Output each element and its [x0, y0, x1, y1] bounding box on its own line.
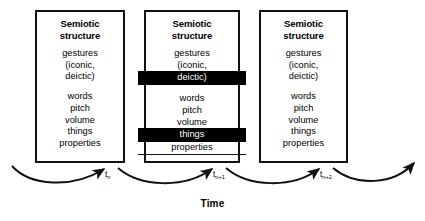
box-title: Semiotic structure	[261, 12, 346, 41]
term-item: properties	[261, 138, 346, 150]
box-title-line2: structure	[37, 30, 123, 42]
semiotic-structure-box-tn1: Semiotic structure gestures (iconic, dei…	[144, 10, 240, 163]
box-content: Semiotic structure gestures (iconic, dei…	[146, 12, 238, 161]
term-item: (iconic,	[261, 60, 346, 72]
term-item: volume	[146, 117, 238, 129]
box-title-line2: structure	[146, 30, 238, 42]
time-arrow-2	[118, 168, 212, 183]
term-item-highlighted: things	[138, 128, 246, 142]
box-title-line1: Semiotic	[261, 18, 346, 30]
figure-canvas: Semiotic structure gestures (iconic, dei…	[0, 0, 425, 221]
time-tick-label-tn: tn	[105, 170, 110, 179]
term-item: properties	[138, 142, 246, 155]
term-item: deictic)	[261, 71, 346, 83]
term-item: things	[261, 126, 346, 138]
time-axis-caption: Time	[0, 198, 425, 209]
term-item: gestures	[146, 48, 238, 60]
box-content: Semiotic structure gestures (iconic, dei…	[261, 12, 346, 161]
box-content: Semiotic structure gestures (iconic, dei…	[37, 12, 123, 161]
term-item: volume	[37, 115, 123, 127]
box-title: Semiotic structure	[37, 12, 123, 41]
tick-subscript: n	[107, 174, 110, 180]
term-list: gestures (iconic, deictic) words pitch v…	[146, 48, 238, 155]
term-item: gestures	[261, 48, 346, 60]
term-list: gestures (iconic, deictic) words pitch v…	[261, 48, 346, 150]
term-item: pitch	[146, 105, 238, 117]
tick-subscript: n+1	[215, 174, 225, 180]
term-item: deictic)	[37, 71, 123, 83]
semiotic-structure-box-tn2: Semiotic structure gestures (iconic, dei…	[259, 10, 348, 163]
term-item: gestures	[37, 48, 123, 60]
box-title-line2: structure	[261, 30, 346, 42]
tick-subscript: n+2	[322, 174, 332, 180]
term-item: properties	[37, 138, 123, 150]
box-title: Semiotic structure	[146, 12, 238, 41]
term-item: pitch	[37, 103, 123, 115]
term-item: pitch	[261, 103, 346, 115]
term-item: words	[37, 91, 123, 103]
time-tick-label-tn2: tn+2	[320, 170, 332, 179]
time-arrow-1	[12, 166, 104, 183]
term-item: (iconic,	[37, 60, 123, 72]
time-tick-label-tn1: tn+1	[213, 170, 225, 179]
time-arrow-4	[333, 163, 414, 181]
box-title-line1: Semiotic	[146, 18, 238, 30]
semiotic-structure-box-tn: Semiotic structure gestures (iconic, dei…	[35, 10, 125, 163]
term-item-highlighted: deictic)	[138, 71, 246, 85]
term-item: words	[261, 91, 346, 103]
term-list: gestures (iconic, deictic) words pitch v…	[37, 48, 123, 150]
term-item: volume	[261, 115, 346, 127]
term-item: words	[146, 93, 238, 105]
term-item: (iconic,	[146, 60, 238, 72]
time-arrow-3	[226, 168, 319, 183]
term-item: things	[37, 126, 123, 138]
box-title-line1: Semiotic	[37, 18, 123, 30]
